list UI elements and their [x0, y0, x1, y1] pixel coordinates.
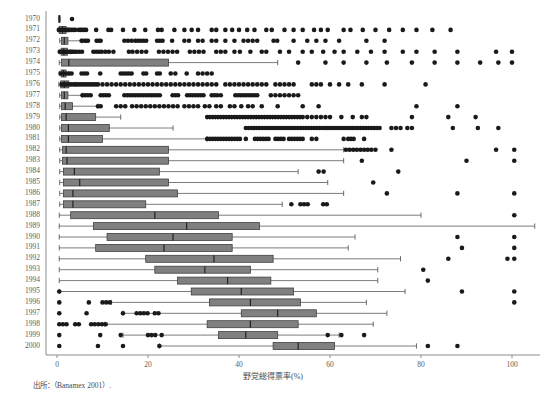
box-rect [62, 59, 169, 66]
outlier-point [176, 93, 181, 98]
boxplot-row [59, 266, 425, 273]
outlier-point [364, 115, 369, 120]
boxplot-row [60, 168, 401, 175]
outlier-point [137, 82, 142, 87]
outlier-point [328, 82, 333, 87]
outlier-point [182, 39, 187, 44]
outlier-point [159, 333, 164, 338]
outlier-point [316, 169, 321, 174]
outlier-point [319, 82, 324, 87]
outlier-point [362, 137, 367, 142]
y-axis-year-label: 1974 [25, 58, 40, 66]
outlier-point [94, 28, 99, 33]
outlier-point [410, 126, 415, 131]
outlier-point [153, 333, 158, 338]
outlier-point [414, 104, 419, 109]
outlier-point [201, 93, 206, 98]
y-axis-year-labels: 1970197119721973197419751976197719781979… [0, 0, 44, 405]
outlier-point [69, 71, 74, 76]
box-rect [219, 332, 278, 339]
outlier-point [264, 28, 269, 33]
outlier-point [57, 344, 62, 349]
outlier-point [510, 60, 515, 65]
boxplot-row [60, 146, 517, 153]
outlier-point [473, 115, 478, 120]
outlier-point [107, 49, 112, 54]
outlier-point [141, 82, 146, 87]
y-axis-year-label: 1973 [25, 47, 40, 55]
boxplot-row [60, 37, 387, 44]
boxplot-row [59, 223, 534, 230]
boxplot-row [57, 332, 366, 339]
boxplot-row [59, 59, 514, 66]
outlier-point [187, 39, 192, 44]
outlier-point [360, 28, 365, 33]
outlier-point [144, 71, 149, 76]
boxplot-row [57, 288, 517, 295]
outlier-point [209, 71, 214, 76]
outlier-point [200, 39, 205, 44]
outlier-point [287, 93, 292, 98]
box-rect [241, 310, 316, 317]
box-rect [63, 201, 145, 208]
outlier-point [273, 93, 278, 98]
outlier-point [182, 28, 187, 33]
outlier-point [128, 82, 133, 87]
outlier-point [432, 60, 437, 65]
outlier-point [512, 289, 517, 294]
y-axis-year-label: 1992 [25, 254, 40, 262]
outlier-point [278, 82, 283, 87]
outlier-point [173, 82, 178, 87]
outlier-point [223, 82, 228, 87]
outlier-point [209, 28, 214, 33]
outlier-point [223, 49, 228, 54]
outlier-point [150, 82, 155, 87]
outlier-point [287, 82, 292, 87]
outlier-point [248, 49, 253, 54]
x-axis-tick-label: 60 [310, 360, 350, 369]
outlier-point [259, 104, 264, 109]
boxplot-row [57, 343, 460, 350]
outlier-point [246, 82, 251, 87]
outlier-point [337, 39, 342, 44]
box-rect [191, 288, 293, 295]
box-rect [62, 114, 96, 121]
outlier-point [239, 104, 244, 109]
outlier-point [191, 82, 196, 87]
outlier-point [398, 126, 403, 131]
outlier-point [339, 115, 344, 120]
outlier-point [219, 93, 224, 98]
y-axis-year-label: 1988 [25, 211, 40, 219]
outlier-point [348, 28, 353, 33]
outlier-point [282, 28, 287, 33]
outlier-point [118, 82, 123, 87]
y-axis-year-label: 1985 [25, 178, 40, 186]
outlier-point [269, 28, 274, 33]
outlier-point [205, 71, 210, 76]
boxplot-row [60, 135, 367, 142]
outlier-point [382, 82, 387, 87]
outlier-point [341, 28, 346, 33]
outlier-point [430, 28, 435, 33]
outlier-point [325, 333, 330, 338]
outlier-point [175, 104, 180, 109]
outlier-point [107, 93, 112, 98]
outlier-point [214, 49, 219, 54]
outlier-point [214, 28, 219, 33]
outlier-point [476, 126, 481, 131]
outlier-point [166, 104, 171, 109]
outlier-point [201, 49, 206, 54]
outlier-point [389, 148, 394, 153]
outlier-point [455, 104, 460, 109]
box-rect [209, 299, 300, 306]
outlier-point [241, 82, 246, 87]
outlier-point [494, 148, 499, 153]
outlier-point [84, 311, 89, 316]
x-axis-tick-label: 0 [37, 360, 77, 369]
outlier-point [96, 344, 101, 349]
outlier-point [321, 49, 326, 54]
boxplot-row [60, 157, 517, 164]
outlier-point [214, 39, 219, 44]
outlier-point [223, 28, 228, 33]
outlier-point [278, 49, 283, 54]
